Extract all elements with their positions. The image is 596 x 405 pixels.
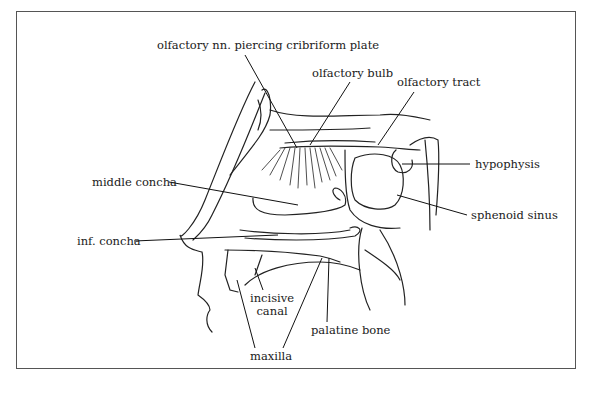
label-incisive-canal-text: incisive canal — [250, 292, 294, 318]
label-maxilla: maxilla — [250, 350, 292, 363]
label-olfactory-nn: olfactory nn. piercing cribriform plate — [157, 39, 379, 52]
label-sphenoid-sinus: sphenoid sinus — [471, 209, 558, 222]
label-inf-concha: inf. concha — [77, 235, 141, 248]
label-palatine-bone: palatine bone — [311, 324, 390, 337]
nasal-cavity-illustration — [0, 0, 596, 405]
label-olfactory-tract: olfactory tract — [397, 76, 480, 89]
label-hypophysis: hypophysis — [475, 158, 540, 171]
label-olfactory-bulb: olfactory bulb — [312, 67, 393, 80]
label-middle-concha: middle concha — [92, 176, 177, 189]
label-incisive-canal: incisive canal — [250, 292, 294, 318]
